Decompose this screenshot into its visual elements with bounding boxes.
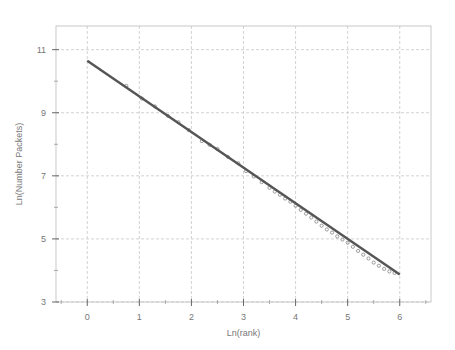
data-point <box>341 238 344 241</box>
data-point <box>336 235 339 238</box>
y-tick-label: 9 <box>41 108 46 118</box>
data-point <box>383 267 386 270</box>
axis-ticks: 0123456357911 <box>37 45 426 322</box>
x-tick-label: 3 <box>241 312 246 322</box>
chart-canvas: 0123456357911 Ln(rank) Ln(Number Packets… <box>0 0 455 350</box>
y-tick-label: 11 <box>37 45 46 55</box>
x-axis-label: Ln(rank) <box>227 328 261 338</box>
data-point <box>367 257 370 260</box>
x-tick-label: 6 <box>397 312 402 322</box>
y-tick-label: 5 <box>41 234 46 244</box>
data-point <box>351 245 354 248</box>
data-point <box>372 261 375 264</box>
x-tick-label: 4 <box>293 312 298 322</box>
data-point <box>330 231 333 234</box>
y-tick-label: 7 <box>41 171 46 181</box>
x-tick-label: 1 <box>137 312 142 322</box>
x-tick-label: 5 <box>345 312 350 322</box>
data-point <box>362 253 365 256</box>
data-point <box>315 220 318 223</box>
y-tick-label: 3 <box>41 297 46 307</box>
data-point <box>388 270 391 273</box>
x-tick-label: 0 <box>85 312 90 322</box>
data-point <box>320 224 323 227</box>
data-point <box>377 264 380 267</box>
y-axis-label: Ln(Number Packets) <box>14 123 24 206</box>
x-tick-label: 2 <box>189 312 194 322</box>
data-point <box>356 249 359 252</box>
grid <box>56 26 431 302</box>
data-point <box>325 228 328 231</box>
data-point <box>310 216 313 219</box>
